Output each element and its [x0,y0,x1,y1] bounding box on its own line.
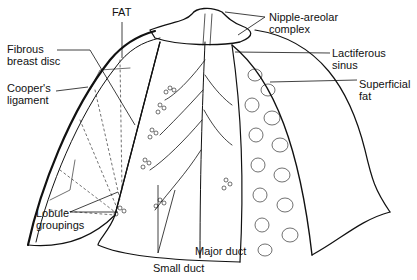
label-major-duct: Major duct [195,245,246,257]
label-line: Fibrous [7,43,60,55]
label-nipple-areolar-complex: Nipple-areolar complex [269,11,338,35]
glandular-region [98,42,240,262]
leader-lactiferous [235,52,330,53]
nipple-areolar-complex [150,8,251,45]
label-small-duct: Small duct [153,262,204,274]
breast-anatomy-diagram [0,0,417,280]
label-coopers-ligament: Cooper's ligament [7,82,51,106]
label-line: groupings [36,219,84,231]
leader-lines [56,12,357,258]
label-line: fat [359,90,410,102]
label-line: sinus [332,59,386,71]
label-lactiferous-sinus: Lactiferous sinus [332,47,386,71]
label-superficial-fat: Superficial fat [359,78,410,102]
label-line: Nipple-areolar [269,11,338,23]
label-lobule-groupings: Lobule groupings [36,207,84,231]
label-fat: FAT [112,6,131,18]
leader-fibrous-disc [57,50,135,125]
label-line: Lactiferous [332,47,386,59]
label-fibrous-breast-disc: Fibrous breast disc [7,43,60,67]
label-line: Cooper's [7,82,51,94]
superficial-fat-region [232,45,312,262]
leader-nipple [225,12,265,35]
leader-superficial-fat [270,80,357,82]
label-line: complex [269,23,338,35]
label-line: Lobule [36,207,84,219]
label-line: Superficial [359,78,410,90]
label-line: breast disc [7,55,60,67]
leader-coopers [56,87,88,91]
label-line: ligament [7,94,51,106]
